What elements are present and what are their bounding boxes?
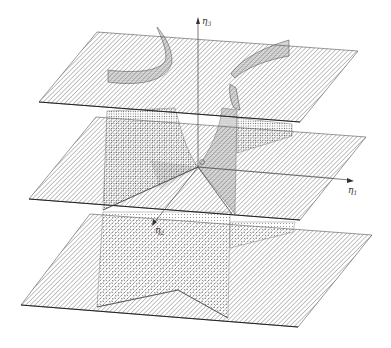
eta1-arrowhead [347,178,354,183]
middle-plane [29,117,366,220]
top-plane [39,32,358,122]
eta3-label: η3 [202,16,211,27]
surface-diagram: η3 η1 η2 [0,0,391,348]
eta3-arrowhead [196,17,200,24]
eta1-label: η1 [348,185,357,196]
